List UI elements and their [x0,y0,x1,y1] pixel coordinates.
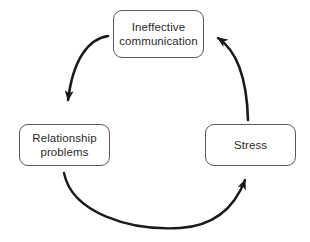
node-label-stress: Stress [234,138,267,152]
node-label-relationship-problems: Relationship problems [32,131,97,159]
arrow-stress-to-communication [218,38,248,120]
arrow-relationship-to-stress [64,173,245,228]
node-stress: Stress [205,124,296,166]
node-ineffective-communication: Ineffective communication [113,10,204,58]
node-label-ineffective-communication: Ineffective communication [119,20,198,48]
arrow-communication-to-relationship [68,36,108,100]
cycle-diagram: Ineffective communication Relationship p… [0,0,310,242]
node-relationship-problems: Relationship problems [19,124,110,166]
